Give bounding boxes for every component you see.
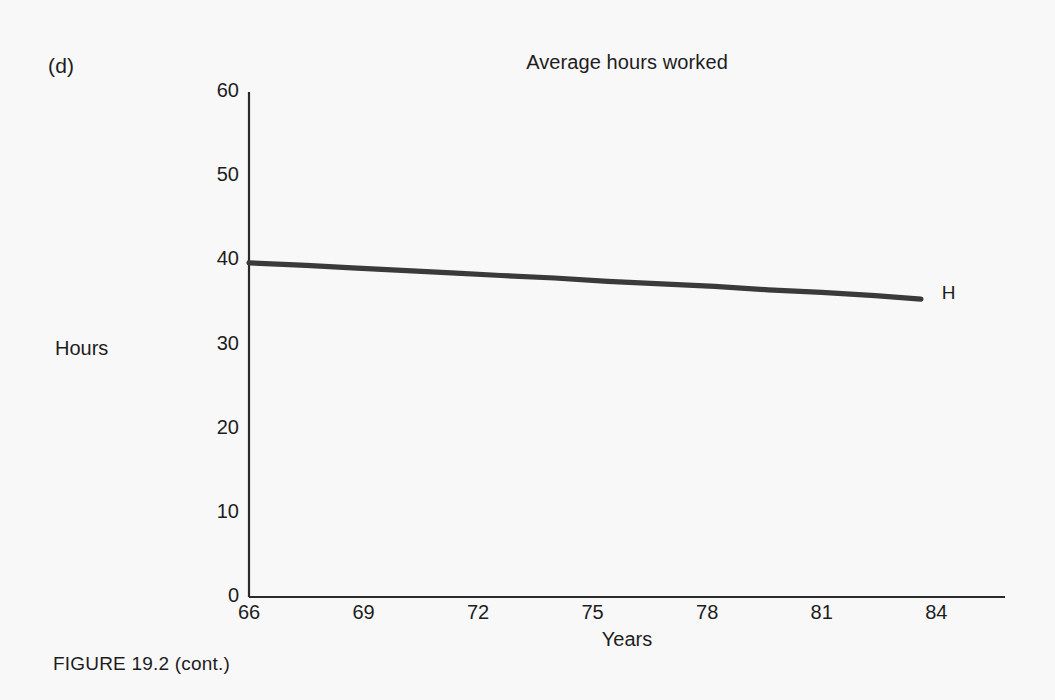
x-tick-label: 66 [219,601,279,624]
y-tick-label: 30 [179,332,239,355]
x-tick-label: 81 [792,601,852,624]
series-group [249,263,921,299]
y-tick-label: 60 [179,79,239,102]
y-tick-label: 20 [179,416,239,439]
series-line-hours [249,263,921,299]
x-tick-label: 69 [334,601,394,624]
y-tick-label: 40 [179,247,239,270]
x-tick-label: 72 [448,601,508,624]
figure-page: (d) Average hours worked Hours Years 010… [0,0,1055,700]
y-tick-label: 10 [179,500,239,523]
y-tick-label: 50 [179,163,239,186]
x-tick-label: 75 [563,601,623,624]
figure-caption: FIGURE 19.2 (cont.) [53,653,230,675]
series-endpoint-label: H [942,282,956,304]
line-chart-plot [0,0,1055,700]
x-tick-label: 78 [677,601,737,624]
axes-group [249,92,1005,597]
x-tick-label: 84 [906,601,966,624]
